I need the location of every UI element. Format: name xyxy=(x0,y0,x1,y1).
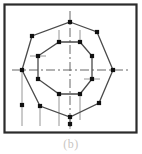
outer-vertex-dot-4 xyxy=(68,115,72,119)
projection-dot-1 xyxy=(68,122,72,126)
figure-panel: (b) xyxy=(0,0,142,154)
inner-vertex-dot-3 xyxy=(90,77,94,81)
technical-drawing-canvas xyxy=(0,0,142,140)
outer-vertex-dot-7 xyxy=(30,34,34,38)
outer-vertex-dot-2 xyxy=(111,68,115,72)
inner-vertex-dot-0 xyxy=(57,40,61,44)
outer-vertex-dot-3 xyxy=(97,101,101,105)
inner-vertex-dot-1 xyxy=(78,40,82,44)
outer-vertex-dot-6 xyxy=(20,68,24,72)
inner-vertex-dot-5 xyxy=(57,92,61,96)
inner-vertex-dot-4 xyxy=(78,92,82,96)
outer-vertex-dot-0 xyxy=(68,20,72,24)
inner-vertex-dot-2 xyxy=(90,54,94,58)
outer-vertex-dot-1 xyxy=(95,30,99,34)
inner-vertex-dot-6 xyxy=(36,77,40,81)
figure-caption: (b) xyxy=(0,137,142,151)
outer-vertex-dot-5 xyxy=(38,104,42,108)
projection-dot-0 xyxy=(20,103,24,107)
inner-vertex-dot-7 xyxy=(36,54,40,58)
